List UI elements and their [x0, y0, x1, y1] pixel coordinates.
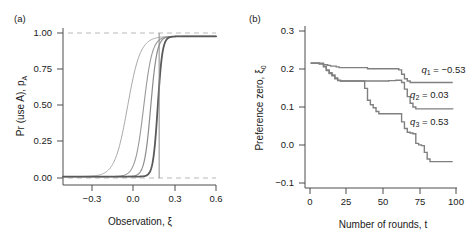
panel-a-curves [63, 33, 216, 178]
y-ticklabel-3: 0.50 [34, 99, 53, 110]
annotation-q2: q2 = 0.03 [410, 89, 449, 102]
panel-a-svg: (a) 1.00 0.75 0.50 0.25 0.00 [0, 0, 237, 242]
x-ticklabel-4: 0.6 [209, 193, 222, 204]
panel-a-label: (a) [14, 13, 26, 24]
panel-b-annotations: q1 = −0.53 q2 = 0.03 q3 = 0.53 [410, 64, 465, 129]
y-axis-title-a-group: Pr (use A), pA [15, 76, 28, 137]
panel-b-label: (b) [249, 13, 261, 24]
x-ticklabel-b-5: 100 [448, 196, 464, 207]
y-axis-title-a-sub: A [21, 76, 28, 81]
curve-logistic-1 [63, 36, 216, 176]
curve-q3 [311, 63, 453, 161]
annotation-q3: q3 = 0.53 [410, 116, 449, 129]
y-ticklabel-b-4: 0.0 [281, 139, 294, 150]
panel-b-svg: (b) 0.3 0.2 0.1 0.0 −0.1 0 [237, 0, 474, 242]
svg-text:Preference zero, ξ0: Preference zero, ξ0 [254, 65, 267, 150]
panel-a: (a) 1.00 0.75 0.50 0.25 0.00 [0, 0, 237, 242]
svg-text:Pr (use A), pA: Pr (use A), pA [15, 76, 28, 137]
x-ticklabel-2: 0.0 [126, 193, 139, 204]
curve-logistic-4 [63, 36, 216, 176]
x-axis-title-b: Number of rounds, t [339, 219, 428, 230]
y-ticklabel-4: 0.25 [34, 135, 53, 146]
y-ticklabel-2: 0.75 [34, 63, 53, 74]
y-ticklabel-1: 1.00 [34, 27, 53, 38]
x-ticklabel-b-1: 0 [307, 196, 312, 207]
y-ticklabel-5: 0.00 [34, 172, 53, 183]
panel-b: (b) 0.3 0.2 0.1 0.0 −0.1 0 [237, 0, 474, 242]
annotation-q1: q1 = −0.53 [421, 64, 465, 77]
figure-container: (a) 1.00 0.75 0.50 0.25 0.00 [0, 0, 474, 242]
x-ticklabel-b-3: 50 [378, 196, 389, 207]
x-ticklabel-1: −0.3 [83, 193, 102, 204]
y-ticklabel-b-5: −0.1 [275, 177, 294, 188]
x-ticklabel-3: 0.3 [168, 193, 181, 204]
y-ticklabel-b-3: 0.1 [281, 101, 294, 112]
y-axis-title-b: Preference zero, ξ [254, 69, 266, 151]
panel-a-reference-lines [68, 33, 216, 178]
y-axis-title-b-group: Preference zero, ξ0 [254, 65, 267, 150]
x-axis-title-a: Observation, ξ [108, 216, 172, 228]
x-ticklabel-b-2: 25 [341, 196, 352, 207]
y-axis-title-a: Pr (use A), p [15, 80, 26, 136]
curve-logistic-2 [63, 36, 216, 176]
y-axis-title-b-sub: 0 [260, 65, 267, 69]
curve-logistic-3 [63, 36, 216, 176]
panel-b-curves [311, 63, 453, 161]
y-ticklabel-b-1: 0.3 [281, 25, 294, 36]
x-ticklabel-b-4: 75 [415, 196, 426, 207]
y-ticklabel-b-2: 0.2 [281, 63, 294, 74]
